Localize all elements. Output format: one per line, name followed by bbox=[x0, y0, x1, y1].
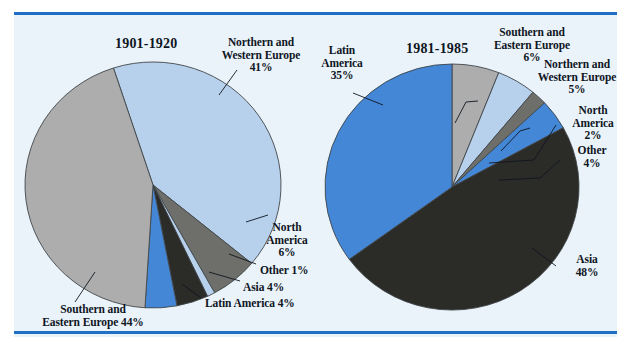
left-label-north-america-value: 6% bbox=[256, 246, 318, 259]
left-label-latin-america-text: Latin America 4% bbox=[205, 297, 295, 310]
right-label-se-europe-line2: Eastern Europe bbox=[479, 39, 585, 52]
rule-bottom bbox=[14, 331, 617, 334]
frame-cap-bottom bbox=[0, 337, 631, 349]
left-label-north-america-line1: North bbox=[256, 221, 318, 234]
right-label-northern-western-europe: Northern and Western Europe 5% bbox=[524, 58, 630, 96]
right-label-other-value: 4% bbox=[565, 157, 619, 170]
frame-cap-top bbox=[0, 0, 631, 12]
rule-top bbox=[14, 12, 617, 15]
right-label-nw-europe-value: 5% bbox=[524, 83, 630, 96]
left-label-other: Other 1% bbox=[260, 264, 309, 277]
left-label-northern-western-europe: Northern and Western Europe 41% bbox=[205, 36, 317, 74]
frame-edge-left bbox=[0, 0, 14, 349]
left-label-latin-america: Latin America 4% bbox=[205, 297, 295, 310]
right-label-asia-value: 48% bbox=[562, 266, 612, 279]
left-label-other-text: Other 1% bbox=[260, 264, 309, 277]
left-label-asia: Asia 4% bbox=[243, 281, 284, 294]
right-label-nw-europe-line1: Northern and bbox=[524, 58, 630, 71]
right-label-latin-america-value: 35% bbox=[312, 69, 372, 82]
left-label-north-america: North America 6% bbox=[256, 221, 318, 259]
right-label-other: Other 4% bbox=[565, 144, 619, 169]
right-label-latin-america-line2: America bbox=[312, 57, 372, 70]
frame-edge-right bbox=[617, 0, 631, 349]
left-label-se-europe-line1: Southern and bbox=[17, 303, 169, 316]
left-label-nw-europe-line2: Western Europe bbox=[205, 49, 317, 62]
right-label-asia-line1: Asia bbox=[562, 253, 612, 266]
right-label-nw-europe-line2: Western Europe bbox=[524, 71, 630, 84]
left-label-nw-europe-line1: Northern and bbox=[205, 36, 317, 49]
figure-canvas: 1901-1920 Northern and Western Europe 41… bbox=[0, 0, 631, 349]
left-label-southern-eastern-europe: Southern and Eastern Europe 44% bbox=[17, 303, 169, 328]
left-label-north-america-line2: America bbox=[256, 234, 318, 247]
right-label-se-europe-line1: Southern and bbox=[479, 26, 585, 39]
right-chart-title: 1981-1985 bbox=[406, 41, 468, 57]
left-label-nw-europe-value: 41% bbox=[205, 61, 317, 74]
right-label-latin-america-line1: Latin bbox=[312, 44, 372, 57]
right-label-other-line1: Other bbox=[565, 144, 619, 157]
right-label-north-america-line1: North bbox=[564, 104, 622, 117]
right-label-asia: Asia 48% bbox=[562, 253, 612, 278]
right-label-latin-america: Latin America 35% bbox=[312, 44, 372, 82]
right-label-north-america-value: 2% bbox=[564, 129, 622, 142]
right-label-north-america-line2: America bbox=[564, 117, 622, 130]
right-label-north-america: North America 2% bbox=[564, 104, 622, 142]
left-label-asia-text: Asia 4% bbox=[243, 281, 284, 294]
left-chart-title: 1901-1920 bbox=[115, 36, 177, 52]
left-label-se-europe-line2: Eastern Europe 44% bbox=[17, 316, 169, 329]
